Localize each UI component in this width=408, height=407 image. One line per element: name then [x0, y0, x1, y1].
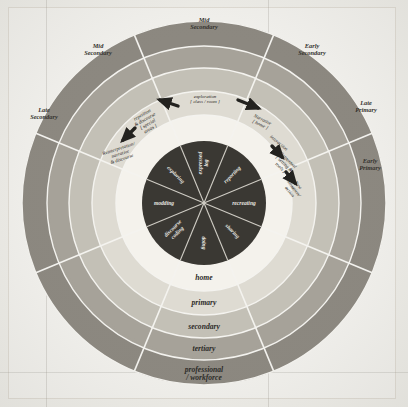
stage-label-early-secondary[interactable]: EarlySecondary — [298, 42, 326, 56]
ring-label-home[interactable]: home — [195, 273, 213, 282]
figure-canvas: expressedlogreportingrecreatingsharingdo… — [0, 0, 408, 407]
stage-label-mid-secondary-top[interactable]: MidSecondary — [190, 16, 218, 30]
concentric-wheel: expressedlogreportingrecreatingsharingdo… — [0, 0, 408, 407]
hub-segment-4[interactable]: doing — [201, 236, 207, 249]
stage-label-late-primary[interactable]: LatePrimary — [355, 99, 377, 113]
ring-label-professional[interactable]: professional/ workforce — [184, 365, 224, 382]
ring-label-secondary[interactable]: secondary — [187, 322, 220, 331]
ring-label-tertiary[interactable]: tertiary — [193, 344, 216, 353]
hub-segment-2[interactable]: recreating — [232, 200, 256, 206]
ring-label-primary[interactable]: primary — [191, 298, 218, 307]
annotation-exploration[interactable]: exploration[ class / room ] — [190, 94, 220, 104]
stage-label-mid-secondary-left[interactable]: MidSecondary — [84, 42, 112, 56]
wheel-svg: expressedlogreportingrecreatingsharingdo… — [0, 0, 408, 407]
hub-segment-6[interactable]: modding — [154, 200, 174, 206]
